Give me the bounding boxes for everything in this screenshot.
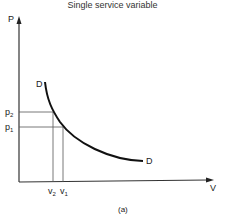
curve-label-end: D [146,156,153,166]
v2-label: v2 [48,186,57,197]
v1-label: v1 [60,186,69,197]
p2-label: p2 [5,107,14,118]
y-axis-label: P [8,14,14,24]
demand-curve [45,82,143,161]
p1-label: p1 [5,122,14,133]
demand-curve-diagram: P V D D p2 p1 v2 v1 (a) [0,0,225,220]
x-axis [19,180,208,182]
y-axis-arrow-icon [17,16,22,24]
curve-label-start: D [36,79,43,89]
x-axis-arrow-icon [206,178,214,183]
figure-caption: (a) [118,205,128,214]
x-axis-label: V [210,183,216,193]
